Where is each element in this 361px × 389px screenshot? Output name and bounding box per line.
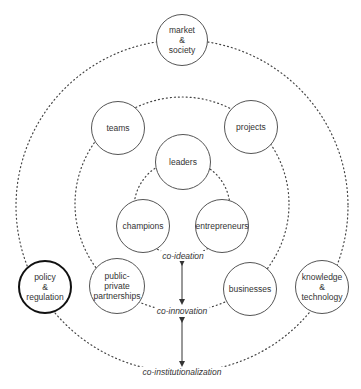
node-policy: policy&regulation bbox=[18, 260, 72, 314]
node-label: entrepreneurs bbox=[196, 221, 249, 231]
node-label: policy&regulation bbox=[26, 272, 63, 302]
node-label: market&society bbox=[169, 25, 195, 55]
node-label: knowledge&technology bbox=[301, 272, 342, 302]
node-label: businesses bbox=[229, 284, 272, 294]
label-co-ideation: co-ideation bbox=[160, 251, 206, 261]
node-knowledge: knowledge&technology bbox=[295, 260, 349, 314]
node-ppp: public-privatepartnerships bbox=[89, 258, 145, 314]
diagram: market&societyteamsprojectsleaderschampi… bbox=[0, 0, 361, 389]
node-leaders: leaders bbox=[155, 134, 211, 190]
label-co-institutionalization: co-institutionalization bbox=[141, 367, 224, 377]
node-label: public-privatepartnerships bbox=[94, 271, 141, 301]
node-champions: champions bbox=[116, 199, 170, 253]
node-label: leaders bbox=[169, 157, 197, 167]
node-teams: teams bbox=[91, 101, 145, 155]
node-label: projects bbox=[236, 122, 266, 132]
node-entrepreneurs: entrepreneurs bbox=[195, 199, 249, 253]
label-co-innovation: co-innovation bbox=[155, 306, 210, 316]
node-label: champions bbox=[122, 221, 163, 231]
node-label: teams bbox=[106, 123, 129, 133]
node-businesses: businesses bbox=[223, 262, 277, 316]
node-projects: projects bbox=[224, 100, 278, 154]
node-market: market&society bbox=[156, 14, 208, 66]
